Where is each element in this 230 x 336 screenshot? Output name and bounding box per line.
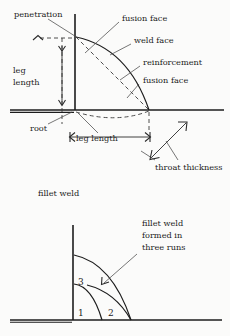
weld-run-number-1: 1 (78, 308, 84, 318)
throat-thickness-dim-line (151, 123, 186, 158)
leg-length-label-line1: leg (13, 65, 26, 75)
throat-thickness-leader-2 (166, 141, 178, 160)
three-runs-leader (104, 254, 137, 283)
three-runs-caption-line2: formed in (142, 230, 183, 240)
reinforcement-leader (120, 66, 140, 80)
throat-thickness-label: throat thickness (155, 162, 222, 172)
three-runs-caption-line1: fillet weld (142, 218, 183, 228)
leg-length-root-leader (78, 113, 98, 133)
fusion-face-top-label: fusion face (122, 13, 167, 23)
weld-face-leader (110, 44, 131, 55)
leg-length-label-line2: length (13, 77, 40, 87)
leg-length-horizontal-label: leg length (76, 133, 119, 143)
bottom-diagram-group: 1 2 3 fillet weld formed in three runs (10, 218, 222, 322)
diagram-canvas: penetration fusion face weld face reinfo… (0, 0, 230, 336)
fusion-face-right-leader (127, 84, 139, 98)
three-runs-arrowhead (102, 277, 110, 285)
weld-run-number-3: 3 (78, 277, 84, 287)
penetration-label: penetration (14, 9, 63, 19)
fusion-face-top-leader (85, 22, 119, 53)
weld-run-number-2: 2 (108, 308, 114, 318)
reinforcement-label: reinforcement (143, 57, 203, 67)
root-label: root (30, 123, 48, 133)
weld-diagram-figure: penetration fusion face weld face reinfo… (0, 0, 230, 336)
three-runs-caption-line3: three runs (142, 242, 185, 252)
penetration-leader (48, 19, 78, 38)
penetration-arc-dashed (76, 111, 149, 118)
theoretical-throat-dashed-line (76, 37, 149, 110)
fillet-weld-caption: fillet weld (38, 188, 79, 198)
fusion-face-right-label: fusion face (143, 75, 188, 85)
top-diagram-group: penetration fusion face weld face reinfo… (10, 9, 224, 198)
root-leader (48, 112, 72, 124)
weld-face-label: weld face (134, 35, 174, 45)
